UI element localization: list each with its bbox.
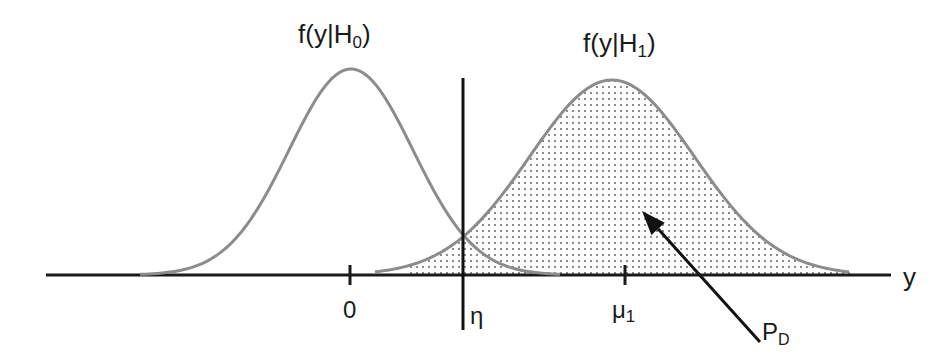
h0-curve-label: f(y|H0) xyxy=(298,19,371,52)
detection-diagram: f(y|H0) f(y|H1) 0 μ1 η y PD xyxy=(0,0,951,358)
pd-shaded-region xyxy=(410,80,850,275)
axis-label-y: y xyxy=(903,262,916,292)
tick-label-zero: 0 xyxy=(343,296,356,323)
tick-label-mu1: μ1 xyxy=(612,296,635,326)
h1-curve-label: f(y|H1) xyxy=(583,28,656,61)
pd-label: PD xyxy=(762,318,790,348)
threshold-label-eta: η xyxy=(470,302,483,329)
